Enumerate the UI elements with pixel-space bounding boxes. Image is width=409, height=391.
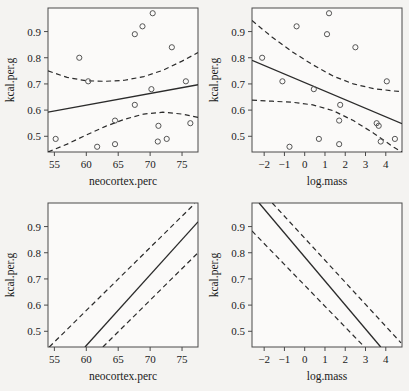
panel-bottom-right: 0.50.60.70.80.9−2−101234log.masskcal.per…	[204, 195, 409, 391]
y-axis-title: kcal.per.g	[4, 252, 17, 297]
x-tick-label: 55	[49, 158, 61, 170]
x-tick-label: 4	[383, 158, 389, 170]
x-tick-label: −1	[279, 353, 291, 365]
y-tick-label: 0.6	[27, 104, 41, 116]
x-tick-label: 3	[363, 353, 369, 365]
x-axis-title: log.mass	[307, 175, 348, 188]
y-tick-label: 0.5	[231, 130, 245, 142]
plot-frame	[252, 8, 402, 152]
panel-bottom-left: 0.50.60.70.80.95560657075neocortex.perck…	[0, 195, 205, 391]
y-tick-label: 0.9	[27, 221, 41, 233]
x-tick-label: 4	[383, 353, 389, 365]
y-tick-label: 0.9	[231, 26, 245, 38]
plot-frame	[48, 8, 198, 152]
x-tick-label: 3	[363, 158, 369, 170]
x-tick-label: 70	[145, 158, 157, 170]
regression-figure: 0.50.60.70.80.95560657075neocortex.perck…	[0, 0, 409, 391]
x-tick-label: 1	[322, 158, 328, 170]
x-tick-label: −2	[258, 353, 270, 365]
x-axis-title: neocortex.perc	[89, 175, 157, 188]
x-tick-label: −2	[258, 158, 270, 170]
y-tick-label: 0.6	[27, 299, 41, 311]
x-tick-label: 65	[113, 158, 125, 170]
x-axis-title: neocortex.perc	[89, 370, 157, 383]
y-tick-label: 0.7	[231, 78, 245, 90]
x-tick-label: 0	[302, 158, 308, 170]
y-axis-title: kcal.per.g	[208, 57, 221, 102]
y-tick-label: 0.7	[231, 273, 245, 285]
y-tick-label: 0.6	[231, 104, 245, 116]
x-tick-label: 60	[81, 158, 93, 170]
y-axis-title: kcal.per.g	[4, 57, 17, 102]
x-tick-label: 75	[177, 158, 189, 170]
x-tick-label: 65	[113, 353, 125, 365]
x-tick-label: 75	[177, 353, 189, 365]
panel-top-left: 0.50.60.70.80.95560657075neocortex.perck…	[0, 0, 205, 196]
x-tick-label: 60	[81, 353, 93, 365]
y-tick-label: 0.5	[231, 325, 245, 337]
panel-top-right: 0.50.60.70.80.9−2−101234log.masskcal.per…	[204, 0, 409, 196]
y-tick-label: 0.8	[27, 52, 41, 64]
x-tick-label: 2	[342, 353, 348, 365]
y-tick-label: 0.5	[27, 130, 41, 142]
y-tick-label: 0.8	[27, 247, 41, 259]
y-tick-label: 0.8	[231, 247, 245, 259]
y-tick-label: 0.9	[27, 26, 41, 38]
y-tick-label: 0.7	[27, 78, 41, 90]
y-tick-label: 0.6	[231, 299, 245, 311]
x-axis-title: log.mass	[307, 370, 348, 383]
x-tick-label: 70	[145, 353, 157, 365]
x-tick-label: 1	[322, 353, 328, 365]
y-tick-label: 0.5	[27, 325, 41, 337]
plot-frame	[252, 203, 402, 347]
y-axis-title: kcal.per.g	[208, 252, 221, 297]
y-tick-label: 0.7	[27, 273, 41, 285]
y-tick-label: 0.8	[231, 52, 245, 64]
x-tick-label: 0	[302, 353, 308, 365]
x-tick-label: −1	[279, 158, 291, 170]
x-tick-label: 2	[342, 158, 348, 170]
x-tick-label: 55	[49, 353, 61, 365]
y-tick-label: 0.9	[231, 221, 245, 233]
